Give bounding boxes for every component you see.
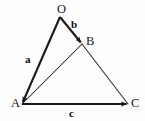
vector-diagram: O B A C a b c	[0, 0, 145, 121]
vector-label-c: c	[69, 108, 74, 119]
edge-a-to-b-line	[22, 44, 82, 104]
point-label-c: C	[131, 97, 139, 110]
vector-label-a: a	[25, 54, 31, 65]
point-label-o: O	[57, 3, 66, 16]
point-label-a: A	[11, 97, 20, 110]
edge-b-to-c-line	[82, 44, 128, 104]
vector-label-b: b	[71, 19, 77, 30]
point-label-b: B	[86, 35, 94, 48]
